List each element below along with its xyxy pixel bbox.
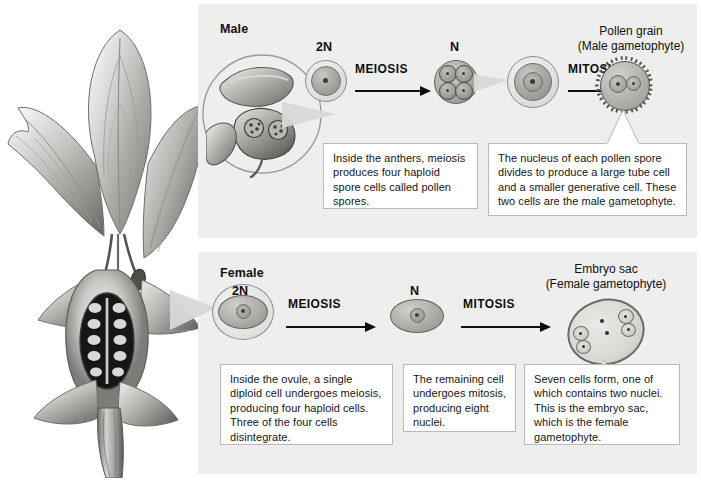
pollen-exine-spike: [602, 101, 607, 106]
female-mitosis-label: MITOSIS: [463, 297, 515, 311]
male-callout-mitosis: The nucleus of each pollen spore divides…: [488, 143, 687, 216]
pollen-exine-spike: [625, 56, 628, 61]
polar-nucleus: [600, 319, 604, 323]
female-n-nucleus: [415, 313, 419, 317]
embryo-sac-title: Embryo sac: [526, 262, 686, 277]
female-2n-nucleus: [241, 309, 245, 313]
female-pathway-panel: Female 2N MEIOSIS N MITOSIS Embryo sa: [198, 252, 697, 474]
embryo-sac-label-group: Embryo sac (Female gametophyte): [526, 262, 686, 292]
tube-cell: [609, 75, 627, 93]
pollen-exine-spike: [597, 93, 602, 97]
sac-cell-antipodal: [618, 309, 634, 324]
sac-cell-synergid: [576, 340, 591, 354]
female-ploidy-n-label: N: [410, 284, 419, 298]
pollen-grain-label-group: Pollen grain (Male gametophyte): [556, 24, 701, 54]
pollen-grain-subtitle: (Male gametophyte): [556, 39, 701, 54]
male-ploidy-2n-label: 2N: [316, 40, 332, 54]
male-panel-label: Male: [220, 22, 248, 36]
male-meiosis-arrow: [355, 86, 431, 96]
sac-cell-antipodal: [621, 323, 636, 337]
anther-to-cell-cone: [282, 96, 344, 136]
female-ploidy-2n-label: 2N: [232, 284, 248, 298]
pollen-spore: [455, 65, 473, 83]
pollen-exine-spike: [644, 69, 649, 73]
pollen-exine-spike: [634, 59, 638, 64]
figure-canvas: Male: [0, 0, 701, 483]
female-callout-mitosis: The remaining cell undergoes mitosis, pr…: [403, 364, 516, 432]
female-panel-label: Female: [220, 266, 264, 280]
pollen-exine-spike: [641, 101, 646, 106]
male-pathway-panel: Male: [198, 4, 697, 238]
embryo-sac-subtitle: (Female gametophyte): [526, 277, 686, 292]
generative-cell: [626, 76, 641, 91]
flowering-plant-cutaway-illustration: [0, 8, 212, 478]
female-callout-embryo-sac: Seven cells form, one of which contains …: [524, 364, 680, 445]
flower-svg: [0, 8, 212, 478]
spore-nucleus: [530, 79, 535, 84]
sac-cell-synergid: [573, 326, 589, 341]
male-meiosis-label: MEIOSIS: [355, 62, 408, 76]
pollen-exine-spike: [648, 84, 652, 86]
male-ploidy-n-label: N: [450, 40, 459, 54]
female-meiosis-arrow: [286, 322, 376, 332]
female-callout-meiosis: Inside the ovule, a single diploid cell …: [220, 364, 393, 445]
pollen-grain-art: [596, 57, 652, 113]
pollen-exine-spike: [646, 73, 651, 77]
female-mitosis-arrow: [461, 322, 551, 332]
male-spore-tetrad: [434, 60, 478, 104]
male-callout-leader: [593, 108, 653, 146]
pollen-exine-spike: [620, 56, 623, 61]
female-meiosis-label: MEIOSIS: [288, 297, 341, 311]
polar-nucleus: [605, 331, 609, 335]
pollen-spore: [455, 82, 473, 100]
pollen-exine-spike: [595, 79, 600, 82]
pollen-grain-title: Pollen grain: [556, 24, 701, 39]
pollen-exine-spike: [595, 84, 599, 86]
pollen-exine-spike: [595, 88, 600, 91]
male-2n-nucleus: [323, 78, 328, 83]
male-callout-meiosis: Inside the anthers, meiosis produces fou…: [323, 143, 478, 209]
